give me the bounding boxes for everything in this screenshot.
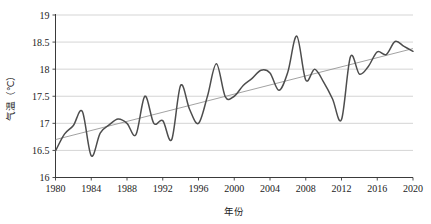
- y-tick-label: 16: [40, 172, 50, 183]
- x-tick-label: 2020: [403, 183, 423, 194]
- y-tick-label: 17.5: [32, 91, 50, 102]
- x-tick-label: 1988: [117, 183, 137, 194]
- y-tick-label: 17: [40, 118, 50, 129]
- y-tick-label: 18: [40, 64, 50, 75]
- x-tick-labels: 1980198419881992199620002004200820122016…: [46, 183, 424, 194]
- y-tick-labels: 1616.51717.51818.519: [32, 10, 50, 184]
- x-tick-label: 1996: [189, 183, 209, 194]
- x-tick-label: 2016: [367, 183, 387, 194]
- x-tick-label: 2008: [296, 183, 316, 194]
- y-axis-title: 气温（℃）: [5, 71, 16, 122]
- x-tick-label: 1980: [46, 183, 66, 194]
- x-tick-label: 2004: [260, 183, 280, 194]
- y-tick-label: 18.5: [32, 37, 50, 48]
- y-tick-label: 19: [40, 10, 50, 21]
- x-axis-title: 年份: [224, 206, 244, 217]
- temperature-line-chart: 1616.51717.51818.519 1980198419881992199…: [0, 0, 431, 224]
- x-tick-label: 2012: [332, 183, 352, 194]
- x-tick-label: 1992: [153, 183, 173, 194]
- x-tick-label: 2000: [224, 183, 244, 194]
- trend-line: [56, 49, 414, 140]
- gridlines: [56, 15, 414, 150]
- y-tick-label: 16.5: [32, 145, 50, 156]
- x-tick-label: 1984: [81, 183, 101, 194]
- chart-canvas: 1616.51717.51818.519 1980198419881992199…: [0, 0, 431, 224]
